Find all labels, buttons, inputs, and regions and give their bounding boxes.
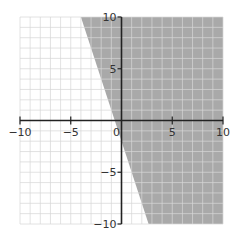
x-tick-label: 5 — [169, 126, 176, 139]
y-tick-label: 5 — [110, 63, 117, 76]
x-tick-label: −10 — [8, 126, 31, 139]
x-tick-label: 10 — [216, 126, 230, 139]
inequality-graph: −10−50510−10−5510 — [0, 0, 241, 241]
x-tick-label: 0 — [113, 126, 120, 139]
y-tick-label: −5 — [100, 166, 116, 179]
y-tick-label: 10 — [103, 11, 117, 24]
y-tick-label: −10 — [93, 218, 116, 231]
x-tick-label: −5 — [63, 126, 79, 139]
